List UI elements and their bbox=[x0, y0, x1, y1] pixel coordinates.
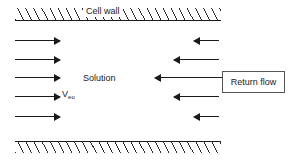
solution-label: Solution bbox=[83, 74, 116, 83]
arrow-head-right bbox=[54, 37, 61, 45]
electroosmotic-flow-arrow bbox=[15, 112, 60, 121]
arrow-head-left bbox=[193, 37, 200, 45]
electroosmotic-flow-arrow bbox=[15, 92, 60, 101]
cell-wall-label: Cell wall bbox=[83, 6, 123, 17]
electroosmotic-flow-arrow bbox=[15, 36, 60, 45]
return-flow-arrow bbox=[174, 55, 219, 64]
arrow-shaft bbox=[174, 59, 219, 60]
return-flow-callout-box: Return flow bbox=[222, 71, 285, 93]
return-flow-arrow bbox=[194, 112, 219, 121]
bottom-cell-wall bbox=[15, 141, 221, 153]
arrow-head-left bbox=[193, 113, 200, 121]
flow-diagram: Cell wall bbox=[0, 0, 297, 163]
return-flow-arrow bbox=[174, 92, 219, 101]
arrow-shaft bbox=[174, 96, 219, 97]
electroosmotic-flow-arrow bbox=[15, 55, 60, 64]
return-flow-arrow bbox=[155, 73, 222, 82]
wall-hatch-pattern-bottom bbox=[15, 141, 221, 153]
veo-velocity-label: Veo bbox=[62, 90, 75, 99]
veo-subscript: eo bbox=[68, 94, 75, 100]
arrow-head-right bbox=[54, 93, 61, 101]
return-flow-label: Return flow bbox=[223, 77, 284, 87]
arrow-head-right bbox=[54, 74, 61, 82]
arrow-head-left bbox=[173, 56, 180, 64]
arrow-head-right bbox=[54, 113, 61, 121]
arrow-head-right bbox=[54, 56, 61, 64]
arrow-shaft bbox=[155, 77, 222, 78]
arrow-head-left bbox=[154, 74, 161, 82]
electroosmotic-flow-arrow bbox=[15, 73, 60, 82]
arrow-head-left bbox=[173, 93, 180, 101]
wall-edge-line-top bbox=[15, 20, 221, 21]
return-flow-arrow bbox=[194, 36, 219, 45]
